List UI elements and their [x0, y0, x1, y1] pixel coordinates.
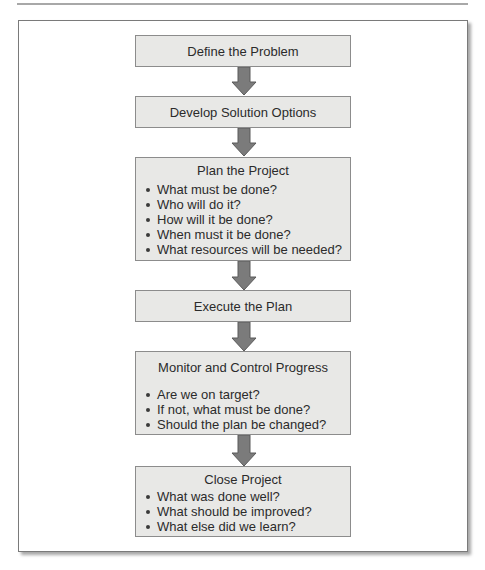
list-item: When must it be done?	[145, 227, 350, 242]
step-title: Execute the Plan	[194, 299, 292, 314]
step-title: Develop Solution Options	[170, 105, 317, 120]
list-item: What else did we learn?	[145, 519, 350, 534]
step-bullet-list: Are we on target? If not, what must be d…	[136, 387, 350, 432]
down-arrow-icon	[231, 67, 257, 96]
step-close-project: Close Project What was done well? What s…	[135, 466, 351, 537]
list-item: What must be done?	[145, 182, 350, 197]
down-arrow-icon	[231, 261, 257, 291]
list-item: What was done well?	[145, 489, 350, 504]
list-item: What should be improved?	[145, 504, 350, 519]
list-item: Should the plan be changed?	[145, 417, 350, 432]
step-title: Plan the Project	[136, 162, 350, 179]
list-item: Who will do it?	[145, 197, 350, 212]
step-plan-project: Plan the Project What must be done? Who …	[135, 157, 351, 261]
list-item: If not, what must be done?	[145, 402, 350, 417]
list-item: Are we on target?	[145, 387, 350, 402]
down-arrow-icon	[231, 128, 257, 157]
step-define-problem: Define the Problem	[135, 35, 351, 67]
step-execute-plan: Execute the Plan	[135, 290, 351, 322]
down-arrow-icon	[231, 322, 257, 352]
step-title: Define the Problem	[187, 44, 298, 59]
step-monitor-control-progress: Monitor and Control Progress Are we on t…	[135, 351, 351, 435]
list-item: What resources will be needed?	[145, 242, 350, 257]
top-rule	[17, 3, 468, 5]
down-arrow-icon	[231, 435, 257, 467]
step-bullet-list: What was done well? What should be impro…	[136, 489, 350, 534]
list-item: How will it be done?	[145, 212, 350, 227]
step-title: Close Project	[136, 471, 350, 488]
step-bullet-list: What must be done? Who will do it? How w…	[136, 182, 350, 257]
step-develop-solution-options: Develop Solution Options	[135, 96, 351, 128]
step-title: Monitor and Control Progress	[136, 359, 350, 376]
